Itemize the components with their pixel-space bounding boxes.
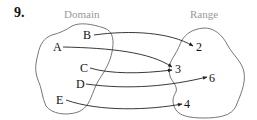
arrow-C-to-3: [90, 68, 172, 73]
range-element-3: 3: [175, 62, 181, 76]
domain-element-C: C: [80, 61, 88, 75]
range-element-6: 6: [209, 71, 215, 85]
domain-title: Domain: [64, 8, 100, 20]
function-mapping-diagram: 9. Domain Range B A C D E 2 3 6 4: [0, 0, 257, 120]
range-element-4: 4: [184, 97, 190, 111]
domain-element-A: A: [53, 40, 62, 54]
problem-number: 9.: [14, 5, 25, 20]
domain-set-outline: [36, 24, 113, 114]
domain-element-D: D: [76, 77, 85, 91]
domain-element-E: E: [56, 93, 63, 107]
range-title: Range: [190, 8, 218, 20]
range-element-2: 2: [196, 40, 202, 54]
domain-element-B: B: [83, 28, 91, 42]
arrow-D-to-6: [86, 77, 207, 87]
arrow-E-to-4: [66, 100, 182, 109]
arrow-B-to-2: [94, 33, 193, 46]
